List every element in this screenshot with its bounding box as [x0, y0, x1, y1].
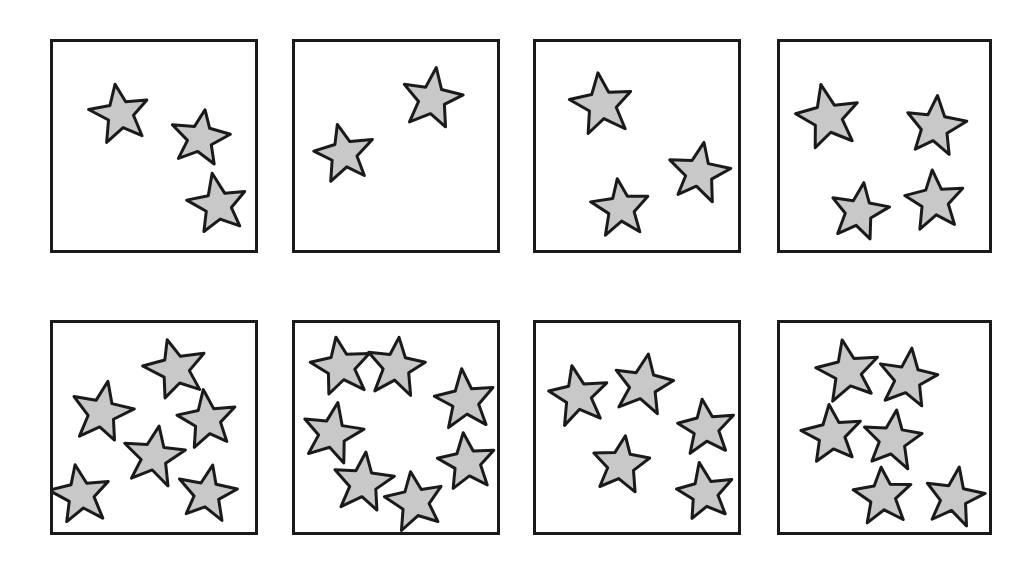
star-icon [85, 79, 154, 146]
star-shape [174, 460, 240, 522]
star-field [536, 323, 744, 538]
star-shape [921, 462, 989, 528]
star-icon [174, 460, 240, 522]
star-icon [566, 68, 637, 138]
star-icon [859, 406, 924, 470]
star-icon [851, 464, 914, 524]
star-icon [921, 462, 989, 528]
star-shape [590, 432, 652, 493]
star-shape [903, 92, 969, 156]
star-icon [138, 332, 212, 402]
star-panels-figure [0, 0, 1032, 579]
star-shape [363, 333, 428, 397]
star-field [53, 323, 261, 538]
star-shape [67, 376, 138, 445]
star-icon [298, 397, 369, 466]
star-shape [875, 344, 941, 408]
star-panel [777, 320, 992, 535]
star-shape [434, 428, 499, 492]
star-shape [399, 63, 466, 128]
star-panel [50, 39, 258, 253]
star-icon [590, 432, 652, 493]
star-icon [673, 457, 738, 521]
star-panel [292, 320, 500, 535]
star-shape [310, 119, 378, 184]
star-shape [589, 176, 651, 236]
star-shape [812, 334, 884, 403]
star-shape [798, 401, 864, 463]
star-shape [566, 68, 637, 138]
star-icon [310, 119, 378, 184]
star-icon [610, 349, 677, 415]
star-shape [675, 396, 737, 455]
star-shape [859, 406, 924, 470]
star-icon [664, 138, 734, 204]
star-icon [812, 334, 884, 403]
star-field [780, 323, 995, 538]
star-icon [798, 401, 864, 463]
star-shape [183, 169, 249, 233]
star-icon [167, 105, 234, 167]
star-icon [67, 376, 138, 445]
star-panel [777, 39, 992, 253]
star-field [53, 42, 261, 256]
star-shape [298, 397, 369, 466]
star-icon [174, 386, 239, 449]
star-icon [183, 169, 249, 233]
star-panel [292, 39, 500, 253]
star-icon [399, 63, 466, 128]
star-panel [533, 320, 741, 535]
star-shape [673, 457, 738, 521]
star-shape [610, 349, 677, 415]
star-icon [826, 177, 893, 242]
star-icon [53, 460, 114, 527]
star-shape [120, 422, 189, 488]
star-icon [875, 344, 941, 408]
star-field [295, 323, 503, 538]
star-shape [545, 361, 612, 427]
star-icon [431, 365, 497, 430]
star-icon [434, 428, 499, 492]
star-icon [675, 396, 737, 455]
star-field [780, 42, 995, 256]
star-icon [363, 333, 428, 397]
star-field [295, 42, 503, 256]
star-shape [307, 332, 376, 398]
star-icon [589, 176, 651, 236]
star-shape [902, 167, 966, 230]
star-shape [664, 138, 734, 204]
star-field [536, 42, 744, 256]
star-icon [307, 332, 376, 398]
star-shape [791, 78, 865, 151]
star-shape [174, 386, 239, 449]
star-icon [120, 422, 189, 488]
star-shape [85, 79, 154, 146]
star-shape [138, 332, 212, 402]
star-icon [545, 361, 612, 427]
star-shape [826, 177, 893, 242]
star-icon [902, 167, 966, 230]
star-shape [167, 105, 234, 167]
star-icon [903, 92, 969, 156]
star-shape [851, 464, 914, 524]
star-panel [50, 320, 258, 535]
star-shape [53, 460, 114, 527]
star-icon [791, 78, 865, 151]
star-shape [431, 365, 497, 430]
star-panel [533, 39, 741, 253]
